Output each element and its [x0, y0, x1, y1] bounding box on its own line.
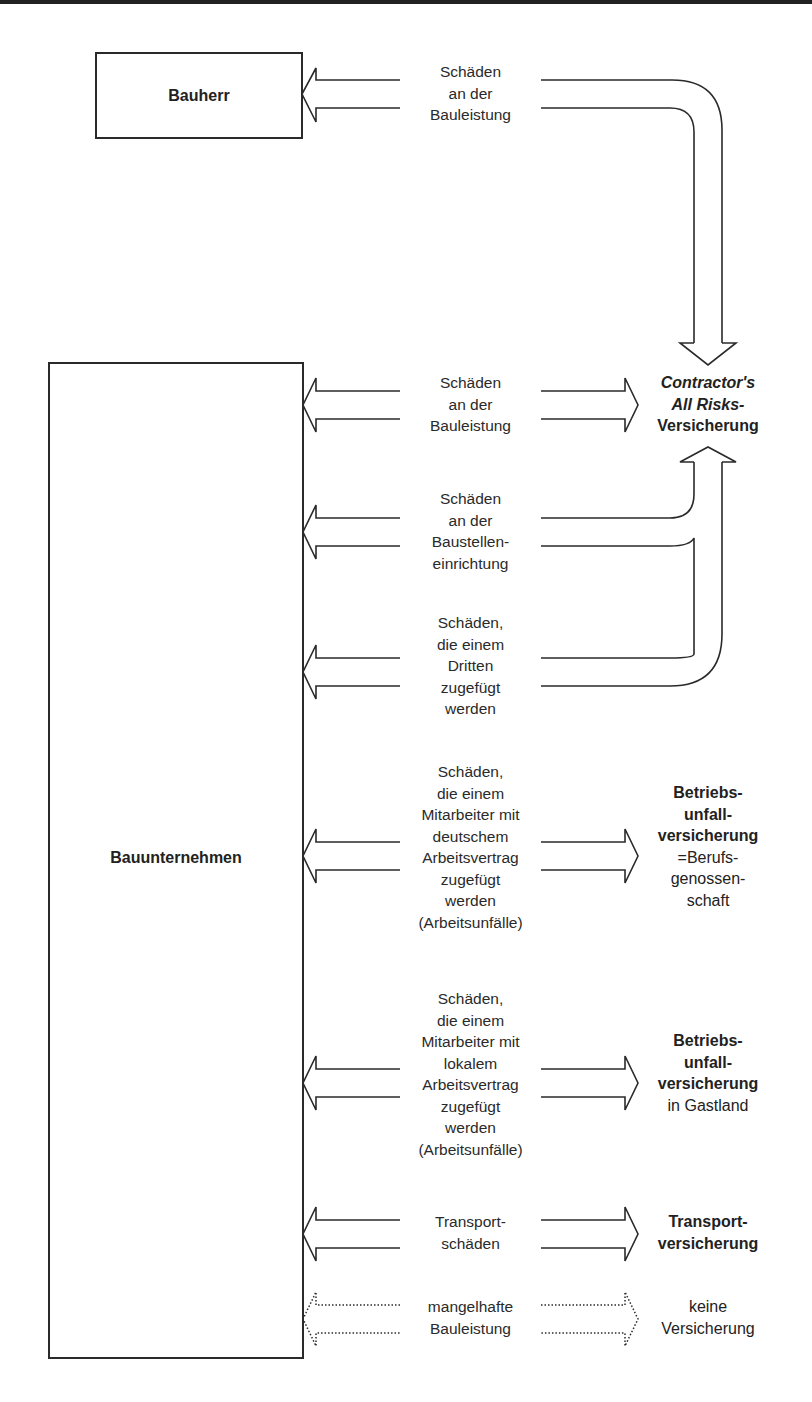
flow-label-baustelleneinrichtung: Schäden an der Baustellen- einrichtung: [400, 488, 541, 574]
flow-label-dritte: Schäden, die einem Dritten zugefügt werd…: [400, 612, 541, 720]
insurance-gastland: Betriebs- unfall- versicherung in Gastla…: [636, 1030, 780, 1116]
curve-to-car-up: [541, 447, 736, 686]
bauherr-label: Bauherr: [168, 87, 229, 105]
flow-label-transport: Transport- schäden: [400, 1211, 541, 1254]
flow-label-mitarbeiter-deutsch: Schäden, die einem Mitarbeiter mit deuts…: [396, 761, 545, 933]
insurance-transport: Transport- versicherung: [636, 1211, 780, 1254]
arrow-dritte-left: [303, 645, 400, 699]
flow-label-bauherr-bauleistung: Schäden an der Bauleistung: [400, 61, 541, 126]
flow-label-mangelhaft: mangelhafte Bauleistung: [400, 1296, 541, 1339]
insurance-berufsgenossenschaft: Betriebs- unfall- versicherung =Berufs- …: [636, 782, 780, 911]
insurance-car: Contractor's All Risks- Versicherung: [636, 372, 780, 437]
bauunternehmen-box: Bauunternehmen: [48, 362, 304, 1359]
arrow-to-bauherr: [302, 68, 400, 122]
bauherr-box: Bauherr: [95, 52, 303, 139]
bauunternehmen-label: Bauunternehmen: [110, 849, 242, 867]
insurance-none: keine Versicherung: [636, 1296, 780, 1339]
arrow-baustelleneinrichtung-left: [303, 505, 400, 559]
flow-label-mitarbeiter-lokal: Schäden, die einem Mitarbeiter mit lokal…: [396, 988, 545, 1160]
curve-bauherr-to-car: [541, 80, 736, 365]
flow-label-bauleistung: Schäden an der Bauleistung: [400, 372, 541, 437]
